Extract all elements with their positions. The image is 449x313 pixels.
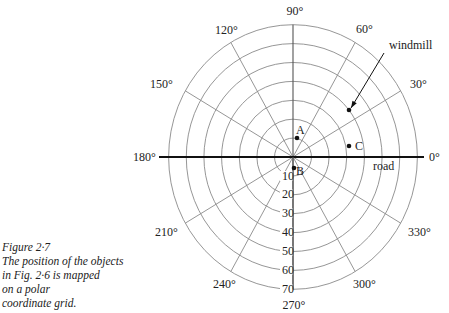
point-b-label: B <box>296 164 304 178</box>
angle-label: 180° <box>133 150 156 164</box>
caption-line: on a polar <box>2 282 152 296</box>
point-windmill-dot <box>347 108 352 113</box>
angle-label: 90° <box>287 4 304 18</box>
angle-label: 300° <box>353 277 376 291</box>
point-c-label: C <box>355 139 363 153</box>
spoke-60 <box>293 42 355 157</box>
caption-title: Figure 2·7 <box>2 240 152 254</box>
road-label: road <box>373 159 394 173</box>
radial-label: 20 <box>282 187 294 201</box>
caption-line: in Fig. 2·6 is mapped <box>2 268 152 282</box>
windmill-label: windmill <box>389 38 433 52</box>
radial-label: 60 <box>282 263 294 277</box>
spoke-210 <box>185 157 293 223</box>
caption-line: coordinate grid. <box>2 296 152 310</box>
angle-label: 240° <box>213 277 236 291</box>
spoke-150 <box>185 91 293 157</box>
radial-distance-labels: 10203040506070 <box>280 157 294 296</box>
radial-label: 30 <box>282 206 294 220</box>
angle-label: 60° <box>356 22 373 36</box>
angle-label: 150° <box>150 77 173 91</box>
radial-label: 10 <box>282 169 294 183</box>
angle-label: 210° <box>155 225 178 239</box>
windmill-arrow <box>351 53 384 108</box>
caption-line: The position of the objects <box>2 254 152 268</box>
radial-label: 50 <box>282 244 294 258</box>
figure-caption: Figure 2·7 The position of the objects i… <box>2 240 152 310</box>
angle-label: 270° <box>283 298 306 312</box>
spoke-30 <box>293 91 401 157</box>
angle-label: 120° <box>215 23 238 37</box>
angle-label: 30° <box>410 77 427 91</box>
angle-label: 330° <box>408 225 431 239</box>
point-c-dot <box>347 144 352 149</box>
radial-label: 40 <box>282 225 294 239</box>
angle-label: 0° <box>429 150 440 164</box>
windmill-annotation: windmill <box>351 38 433 108</box>
radial-label: 70 <box>282 282 294 296</box>
arrowhead-icon <box>351 101 357 108</box>
spoke-120 <box>231 42 293 157</box>
point-a-label: A <box>296 123 305 137</box>
